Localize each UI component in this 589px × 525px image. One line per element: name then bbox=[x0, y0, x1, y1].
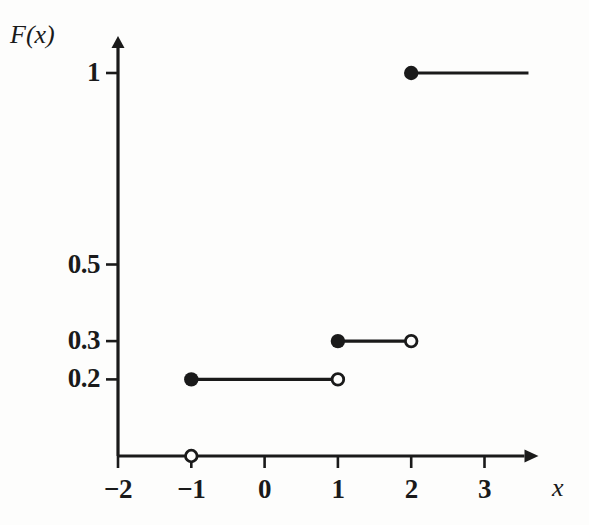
open-point-marker bbox=[186, 450, 198, 462]
x-tick-label: 0 bbox=[235, 474, 295, 505]
x-axis-label: x bbox=[552, 473, 564, 503]
closed-point-marker bbox=[331, 334, 345, 348]
y-tick-label: 1 bbox=[87, 57, 100, 88]
x-tick-label: 1 bbox=[308, 474, 368, 505]
y-tick-label: 0.3 bbox=[68, 325, 100, 356]
cdf-step-chart: F(x) x 0.20.30.51 −2−10123 bbox=[0, 0, 589, 525]
tick-marks-group bbox=[106, 73, 485, 468]
axes-group bbox=[112, 36, 539, 463]
x-tick-label: 3 bbox=[455, 474, 515, 505]
y-tick-label: 0.2 bbox=[68, 363, 100, 394]
x-tick-label: 2 bbox=[381, 474, 441, 505]
step-segments-group bbox=[191, 73, 528, 379]
y-axis-label: F(x) bbox=[10, 20, 55, 50]
x-tick-label: −2 bbox=[88, 474, 148, 505]
open-point-marker bbox=[332, 374, 344, 386]
data-point-markers-group bbox=[184, 66, 418, 462]
closed-point-marker bbox=[184, 372, 198, 386]
closed-point-marker bbox=[404, 66, 418, 80]
y-tick-label: 0.5 bbox=[68, 249, 100, 280]
open-point-marker bbox=[405, 335, 417, 347]
x-tick-label: −1 bbox=[161, 474, 221, 505]
